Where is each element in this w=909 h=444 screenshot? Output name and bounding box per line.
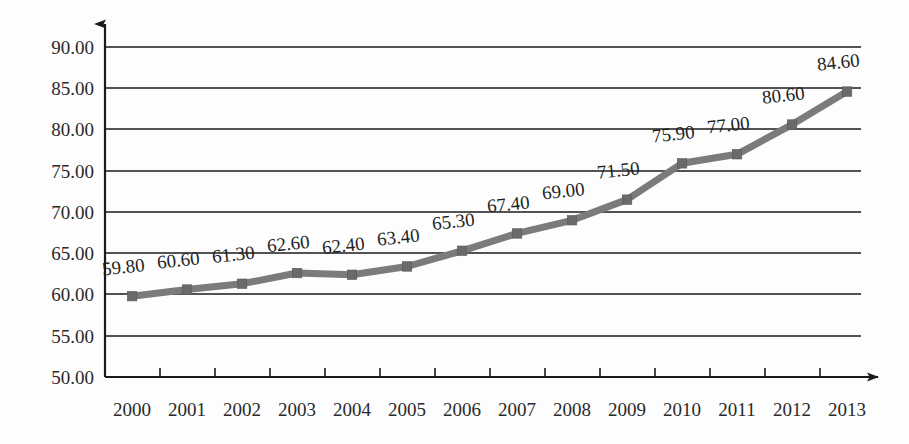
data-point-label: 84.60 bbox=[816, 49, 861, 74]
y-tick-label: 85.00 bbox=[51, 78, 94, 99]
x-tick-label: 2002 bbox=[223, 399, 261, 420]
y-axis-labels: 90.00 85.00 80.00 75.00 70.00 65.00 60.0… bbox=[51, 37, 94, 388]
data-point-marker[interactable] bbox=[457, 246, 467, 256]
x-tick-label: 2011 bbox=[718, 399, 755, 420]
data-point-marker[interactable] bbox=[787, 120, 797, 130]
data-point-marker[interactable] bbox=[127, 291, 137, 301]
data-point-label: 59.80 bbox=[101, 254, 146, 279]
data-point-label: 63.40 bbox=[376, 224, 421, 249]
x-axis-labels: 2000200120022003200420052006200720082009… bbox=[113, 399, 866, 420]
data-point-marker[interactable] bbox=[292, 268, 302, 278]
y-tick-label: 80.00 bbox=[51, 119, 94, 140]
x-tick-label: 2007 bbox=[498, 399, 536, 420]
data-point-label: 71.50 bbox=[596, 157, 641, 182]
data-point-label: 80.60 bbox=[761, 82, 806, 107]
data-point-label: 77.00 bbox=[706, 112, 751, 137]
x-tick-label: 2006 bbox=[443, 399, 481, 420]
data-point-marker[interactable] bbox=[512, 229, 522, 239]
y-tick-label: 65.00 bbox=[51, 243, 94, 264]
y-tick-label: 50.00 bbox=[51, 367, 94, 388]
y-tick-label: 60.00 bbox=[51, 284, 94, 305]
data-point-label: 65.30 bbox=[431, 209, 476, 234]
gridlines bbox=[105, 47, 861, 336]
x-tick-label: 2000 bbox=[113, 399, 151, 420]
data-point-marker[interactable] bbox=[677, 159, 687, 169]
data-point-marker[interactable] bbox=[622, 195, 632, 205]
data-point-marker[interactable] bbox=[347, 270, 357, 280]
data-point-label: 67.40 bbox=[486, 191, 531, 216]
chart-page: 90.00 85.00 80.00 75.00 70.00 65.00 60.0… bbox=[0, 0, 909, 444]
x-tick-label: 2009 bbox=[608, 399, 646, 420]
x-tick-label: 2012 bbox=[773, 399, 811, 420]
y-tick-label: 55.00 bbox=[51, 326, 94, 347]
x-tick-label: 2004 bbox=[333, 399, 372, 420]
x-tick-label: 2003 bbox=[278, 399, 316, 420]
x-tick-label: 2010 bbox=[663, 399, 701, 420]
data-point-label: 69.00 bbox=[541, 178, 586, 203]
y-tick-label: 75.00 bbox=[51, 161, 94, 182]
data-point-marker[interactable] bbox=[567, 216, 577, 226]
line-chart: 90.00 85.00 80.00 75.00 70.00 65.00 60.0… bbox=[0, 0, 909, 444]
x-tick-label: 2005 bbox=[388, 399, 426, 420]
x-tick-label: 2008 bbox=[553, 399, 591, 420]
x-tick-label: 2013 bbox=[828, 399, 866, 420]
data-point-marker[interactable] bbox=[182, 285, 192, 295]
y-tick-label: 70.00 bbox=[51, 202, 94, 223]
data-point-label: 62.60 bbox=[266, 231, 311, 256]
data-point-label: 75.90 bbox=[651, 121, 696, 146]
data-point-marker[interactable] bbox=[732, 150, 742, 160]
data-point-label: 61.30 bbox=[211, 242, 256, 267]
data-point-label: 62.40 bbox=[321, 233, 366, 258]
data-point-marker[interactable] bbox=[237, 279, 247, 289]
x-tick-label: 2001 bbox=[168, 399, 206, 420]
y-tick-label: 90.00 bbox=[51, 37, 94, 58]
data-point-marker[interactable] bbox=[402, 262, 412, 272]
data-point-marker[interactable] bbox=[842, 87, 852, 97]
data-point-label: 60.60 bbox=[156, 247, 201, 272]
x-tick-marks bbox=[160, 368, 820, 377]
